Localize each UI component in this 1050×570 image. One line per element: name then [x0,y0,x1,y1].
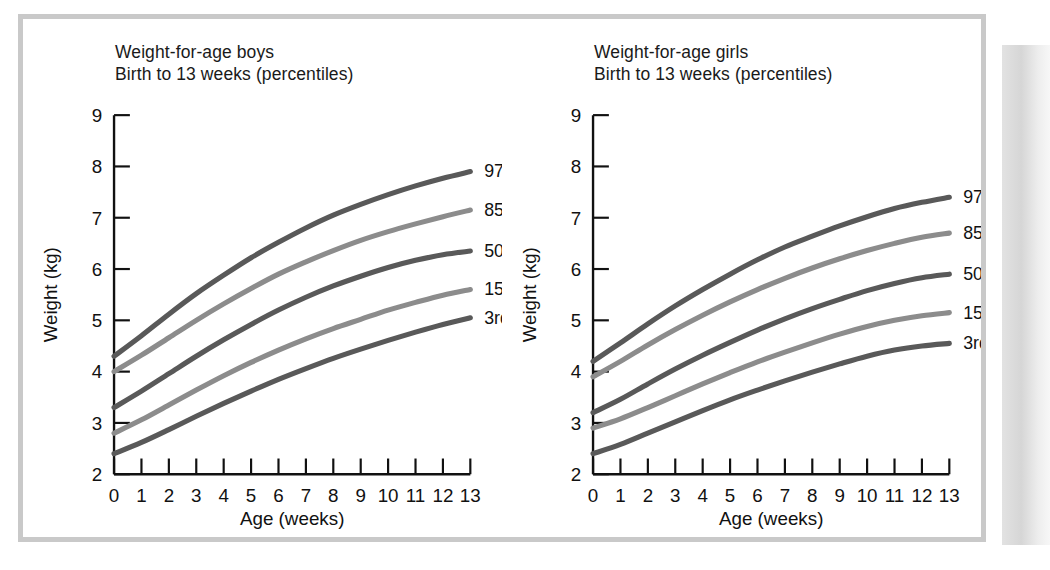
y-tick-label-boys-6: 6 [92,259,102,280]
y-tick-label-boys-8: 8 [92,156,102,177]
y-tick-label-girls-3: 3 [571,413,581,434]
x-tick-label-girls-7: 7 [780,485,790,506]
y-axis-title-girls: Weight (kg) [519,247,540,342]
x-tick-label-girls-6: 6 [752,485,762,506]
curve-girls-3rd [593,343,949,453]
x-tick-label-boys-3: 3 [191,485,201,506]
y-ticks-girls: 23456789 [571,105,609,485]
plot-area-girls: 23456789 012345678910111213 97th85th50th… [502,19,981,537]
x-tick-label-girls-4: 4 [697,485,707,506]
y-tick-label-girls-9: 9 [571,105,581,126]
percentile-label-girls-15th: 15th [963,303,981,323]
x-tick-label-boys-1: 1 [136,485,146,506]
x-tick-label-boys-10: 10 [378,485,399,506]
x-tick-label-girls-10: 10 [857,485,878,506]
y-tick-label-girls-4: 4 [571,362,581,383]
percentile-label-girls-3rd: 3rd [963,333,981,353]
charts-row: Weight-for-age boysBirth to 13 weeks (pe… [23,19,981,537]
curve-girls-97th [593,197,949,361]
percentile-label-girls-85th: 85th [963,223,981,243]
x-tick-label-boys-0: 0 [109,485,119,506]
x-tick-label-boys-12: 12 [432,485,453,506]
plot-area-boys: 23456789 012345678910111213 97th85th50th… [23,19,502,537]
x-tick-label-boys-11: 11 [406,485,426,506]
percentile-label-boys-97th: 97th [484,162,502,182]
x-axis-title-boys: Age (weeks) [240,508,345,529]
y-tick-label-boys-4: 4 [92,362,102,383]
percentile-label-girls-50th: 50th [963,264,981,284]
y-tick-label-boys-5: 5 [92,310,102,331]
x-tick-label-boys-8: 8 [328,485,338,506]
y-tick-label-girls-2: 2 [571,464,581,485]
percentile-label-boys-3rd: 3rd [484,308,502,328]
curves-girls [593,197,949,453]
x-tick-label-girls-9: 9 [834,485,844,506]
y-tick-label-boys-2: 2 [92,464,102,485]
curve-girls-15th [593,313,949,428]
x-tick-label-boys-9: 9 [355,485,365,506]
x-tick-label-girls-11: 11 [885,485,905,506]
curve-boys-15th [114,290,470,434]
y-axis-title-boys: Weight (kg) [40,247,61,342]
y-tick-label-girls-6: 6 [571,259,581,280]
x-tick-label-girls-13: 13 [939,485,960,506]
x-tick-label-girls-12: 12 [911,485,932,506]
percentile-label-boys-50th: 50th [484,241,502,261]
curve-boys-97th [114,172,470,357]
figure-frame: Weight-for-age boysBirth to 13 weeks (pe… [18,14,986,542]
x-tick-label-boys-5: 5 [246,485,256,506]
chart-panel-girls: Weight-for-age girlsBirth to 13 weeks (p… [502,19,981,537]
x-ticks-girls: 012345678910111213 [588,459,960,506]
x-tick-label-boys-6: 6 [273,485,283,506]
axes-girls [593,115,949,474]
y-tick-label-boys-9: 9 [92,105,102,126]
y-tick-label-girls-5: 5 [571,310,581,331]
chart-panel-boys: Weight-for-age boysBirth to 13 weeks (pe… [23,19,502,537]
x-tick-label-boys-2: 2 [164,485,174,506]
percentile-labels-girls: 97th85th50th15th3rd [963,187,981,353]
x-tick-label-boys-13: 13 [460,485,481,506]
x-tick-label-boys-7: 7 [301,485,311,506]
percentile-label-boys-85th: 85th [484,200,502,220]
x-tick-label-girls-2: 2 [643,485,653,506]
x-tick-label-girls-8: 8 [807,485,817,506]
x-tick-label-girls-0: 0 [588,485,598,506]
x-axis-title-girls: Age (weeks) [719,508,824,529]
axes-boys [114,115,470,474]
x-tick-label-girls-5: 5 [725,485,735,506]
y-tick-label-girls-8: 8 [571,156,581,177]
page-edge-artifact [1002,45,1050,545]
percentile-label-girls-97th: 97th [963,187,981,207]
y-tick-label-boys-7: 7 [92,208,102,229]
x-ticks-boys: 012345678910111213 [109,459,481,506]
curves-boys [114,172,470,454]
x-tick-label-girls-3: 3 [670,485,680,506]
y-tick-label-boys-3: 3 [92,413,102,434]
x-tick-label-boys-4: 4 [218,485,228,506]
percentile-labels-boys: 97th85th50th15th3rd [484,162,502,328]
y-tick-label-girls-7: 7 [571,208,581,229]
x-tick-label-girls-1: 1 [615,485,625,506]
percentile-label-boys-15th: 15th [484,280,502,300]
